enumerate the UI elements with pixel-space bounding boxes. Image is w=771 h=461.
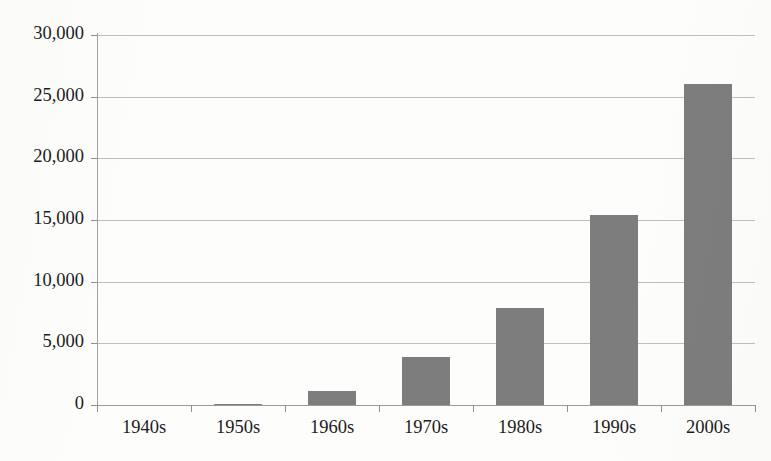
bar — [590, 215, 638, 405]
x-axis-tick-label: 1940s — [97, 417, 191, 438]
bar — [214, 404, 262, 406]
x-axis-tick — [473, 405, 474, 412]
y-axis-tick-label: 5,000 — [0, 331, 84, 352]
bar — [684, 84, 732, 405]
bar-chart: 05,00010,00015,00020,00025,00030,000 194… — [0, 0, 771, 461]
y-axis-tick-label: 20,000 — [0, 146, 84, 167]
x-axis-tick-label: 1990s — [567, 417, 661, 438]
x-axis-tick — [379, 405, 380, 412]
x-axis-tick — [661, 405, 662, 412]
bar — [308, 391, 356, 405]
x-axis-tick-label: 1960s — [285, 417, 379, 438]
x-axis-tick — [755, 405, 756, 412]
y-axis-tick-label: 10,000 — [0, 270, 84, 291]
y-axis-tick-label: 0 — [0, 393, 84, 414]
x-axis-tick-label: 1970s — [379, 417, 473, 438]
y-axis-tick-label: 25,000 — [0, 85, 84, 106]
x-axis-tick-label: 1980s — [473, 417, 567, 438]
x-axis-tick-label: 1950s — [191, 417, 285, 438]
x-axis-tick-label: 2000s — [661, 417, 755, 438]
bar — [496, 308, 544, 405]
x-axis-tick — [285, 405, 286, 412]
x-axis-tick — [191, 405, 192, 412]
gridline — [97, 405, 755, 406]
plot-area — [97, 35, 755, 405]
x-axis-tick — [567, 405, 568, 412]
x-axis-tick — [97, 405, 98, 412]
y-axis-tick-label: 30,000 — [0, 23, 84, 44]
bar — [402, 357, 450, 405]
y-axis-tick-label: 15,000 — [0, 208, 84, 229]
